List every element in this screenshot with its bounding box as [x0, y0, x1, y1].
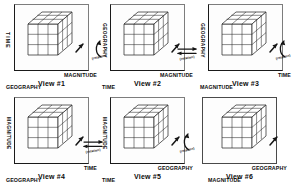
vertical-axis-letters-3: GEOGRAPHY	[199, 23, 204, 58]
vertical-axis-letters-4: MAGNITUDE	[5, 117, 10, 150]
pointer-arrow-6	[270, 137, 277, 145]
pointer-arrow-1	[76, 44, 83, 52]
view-caption-1: View #1	[14, 80, 89, 87]
vertical-axis-label-1: TIME	[2, 6, 13, 74]
view-caption-6: View #6	[202, 173, 277, 180]
depth-axis-label-1: MAGNITUDE	[64, 72, 97, 78]
view-caption-3: View #3	[208, 80, 283, 87]
depth-axis-label-3: TIME	[278, 72, 291, 78]
vertical-axis-label-3: GEOGRAPHY	[196, 6, 207, 74]
vertical-axis-letters-5: MAGNITUDE	[101, 117, 106, 150]
vertical-axis-label-2: GEOGRAPHY	[98, 6, 109, 74]
data-cube-6	[214, 97, 289, 164]
view-caption-2: View #2	[110, 80, 185, 87]
view-caption-4: View #4	[14, 173, 89, 180]
view-panel-6[interactable]: TIME MAGNITUDE GEOGRAPHY Vi	[196, 93, 293, 186]
figure-canvas: TIME GEOGRAPHY MAGNITUDE Vi	[0, 0, 295, 186]
data-cube-1	[14, 4, 89, 71]
depth-axis-label-5: GEOGRAPHY	[158, 165, 193, 171]
vertical-axis-label-5: MAGNITUDE	[98, 99, 109, 167]
vertical-axis-letters-1: TIME	[5, 32, 11, 49]
view-caption-5: View #5	[110, 173, 185, 180]
vertical-axis-letters-2: GEOGRAPHY	[101, 23, 106, 58]
depth-axis-label-6: GEOGRAPHY	[252, 165, 287, 171]
rotation-connector-3-right: (rotation)	[268, 35, 295, 69]
vertical-axis-label-4: MAGNITUDE	[2, 99, 13, 167]
